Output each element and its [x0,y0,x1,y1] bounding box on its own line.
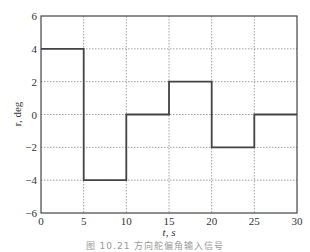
y-tick-label: −6 [25,207,37,219]
x-axis-label: t, s [163,226,176,238]
y-tick-label: 0 [32,109,38,121]
x-tick-label: 0 [38,215,44,227]
y-tick-label: −2 [25,141,37,153]
y-tick-label: 6 [32,10,38,22]
y-tick-label: 4 [32,43,38,55]
figure-caption: 图 10.21 方向舵偏角输入信号 [0,239,310,252]
x-tick-label: 5 [81,215,87,227]
y-tick-label: −4 [25,174,37,186]
x-tick-label: 10 [121,215,133,227]
y-tick-label: 2 [32,76,38,88]
y-tick-labels: −6−4−20246 [25,10,37,219]
y-axis-label: r, deg [11,101,23,126]
x-tick-label: 25 [249,215,261,227]
x-tick-label: 30 [292,215,304,227]
x-tick-label: 20 [206,215,218,227]
